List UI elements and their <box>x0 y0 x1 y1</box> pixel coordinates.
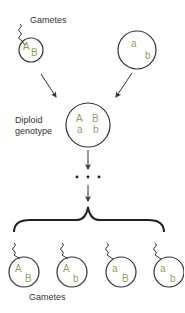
diploid-cell: A B a b <box>66 103 110 147</box>
svg-text:a: a <box>131 38 137 49</box>
diploid-label-line2: genotype <box>15 126 52 136</box>
svg-text:B: B <box>122 273 129 284</box>
offspring-gamete-4: a b <box>154 243 185 287</box>
svg-text:b: b <box>145 50 151 61</box>
svg-text:A: A <box>63 263 70 274</box>
svg-text:b: b <box>93 124 99 135</box>
offspring-gamete-1: A B <box>9 243 39 287</box>
continuation-dots <box>76 176 101 179</box>
svg-text:b: b <box>170 273 176 284</box>
svg-text:A: A <box>76 113 83 124</box>
parent-gamete-2: a b <box>118 31 156 69</box>
svg-text:a: a <box>160 263 166 274</box>
svg-text:B: B <box>25 273 32 284</box>
svg-text:A: A <box>23 41 30 52</box>
offspring-gamete-2: A b <box>57 243 87 287</box>
svg-text:B: B <box>92 113 99 124</box>
svg-text:a: a <box>77 124 83 135</box>
svg-text:B: B <box>31 47 38 58</box>
offspring-gamete-3: a B <box>106 243 137 287</box>
svg-text:a: a <box>112 263 118 274</box>
arrow-right-icon <box>116 73 132 97</box>
bottom-gametes-label: Gametes <box>29 292 66 302</box>
meiosis-diagram: A B a b A B a b <box>0 0 184 313</box>
parent-gamete-1: A B <box>19 24 44 62</box>
svg-text:A: A <box>15 263 22 274</box>
diploid-label-line1: Diploid <box>15 115 43 125</box>
brace-icon <box>14 207 164 232</box>
arrow-left-icon <box>41 74 56 97</box>
svg-text:b: b <box>73 273 79 284</box>
top-gametes-label: Gametes <box>30 15 67 25</box>
